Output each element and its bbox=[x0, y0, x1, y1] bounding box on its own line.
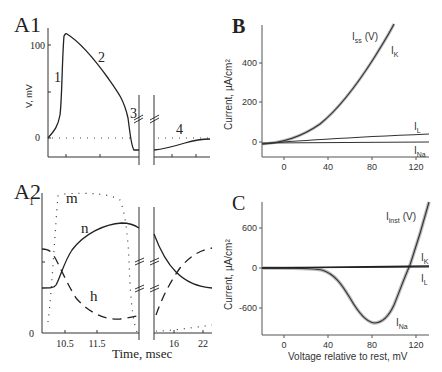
b-iss-halo bbox=[262, 24, 394, 144]
a1-phase-4: 4 bbox=[176, 122, 183, 137]
figure: A1 100 0 V, mV 1 2 3 4 A2 bbox=[0, 0, 442, 372]
a1-ytick-0: 0 bbox=[35, 132, 40, 143]
b-label-iss: Iss(V) bbox=[352, 31, 378, 44]
a2-m-gate-recovery bbox=[156, 325, 212, 331]
a1-ytick-100: 100 bbox=[30, 40, 45, 51]
a2-label-m: m bbox=[66, 190, 78, 206]
panel-a1: A1 100 0 V, mV 1 2 3 4 bbox=[14, 12, 210, 165]
a1-phase-2: 2 bbox=[98, 50, 105, 65]
panel-b: B 400 200 0 0 40 80 120 Current, µA/cm² … bbox=[223, 15, 429, 172]
b-label-ina: INa bbox=[414, 145, 426, 158]
panel-a2: A2 1 0 10.5 11.5 16 22 Time, msec bbox=[14, 179, 212, 361]
b-xtick-40: 40 bbox=[323, 162, 333, 172]
b-xtick-0: 0 bbox=[281, 162, 286, 172]
a2-m-gate-trace bbox=[48, 193, 137, 332]
c-ytick-600: 600 bbox=[242, 223, 257, 233]
a2-ytick-0: 0 bbox=[29, 328, 34, 339]
b-ytick-400: 400 bbox=[242, 58, 257, 68]
panel-c: C 600 0 -600 0 40 80 120 Voltage relativ… bbox=[223, 192, 429, 362]
a1-phase-3: 3 bbox=[130, 106, 137, 121]
b-ytick-200: 200 bbox=[242, 97, 257, 107]
a1-phase-1: 1 bbox=[54, 70, 61, 85]
c-x-axis-label: Voltage relative to rest, mV bbox=[288, 351, 408, 362]
b-label-il: IL bbox=[414, 121, 421, 134]
b-ytick-0: 0 bbox=[252, 137, 257, 147]
a2-ytick-1: 1 bbox=[29, 196, 34, 207]
b-xtick-80: 80 bbox=[367, 162, 377, 172]
c-label-iinst: Iinst(V) bbox=[386, 211, 416, 224]
a2-label-h: h bbox=[90, 288, 98, 304]
c-label-ina: INa bbox=[396, 317, 408, 330]
c-xtick-120: 120 bbox=[408, 340, 423, 350]
a1-voltage-trace bbox=[48, 34, 139, 150]
b-ik-curve bbox=[262, 24, 394, 144]
c-label-il: IL bbox=[421, 273, 428, 286]
panel-label-a1: A1 bbox=[14, 12, 41, 37]
c-ytick-0: 0 bbox=[252, 263, 257, 273]
a2-xtick-11-5: 11.5 bbox=[88, 338, 105, 349]
a2-n-gate-trace bbox=[42, 223, 139, 288]
panel-label-b: B bbox=[232, 15, 245, 37]
a2-xtick-10-5: 10.5 bbox=[56, 338, 74, 349]
c-y-axis-label: Current, µA/cm² bbox=[223, 239, 234, 310]
c-xtick-80: 80 bbox=[367, 340, 377, 350]
a2-h-gate-recovery bbox=[156, 248, 212, 315]
panel-label-c: C bbox=[232, 192, 245, 214]
a1-y-axis-label: V, mV bbox=[24, 84, 34, 108]
b-y-axis-label: Current, µA/cm² bbox=[223, 59, 234, 130]
c-xtick-0: 0 bbox=[281, 340, 286, 350]
a1-voltage-trace-recovery bbox=[154, 139, 210, 150]
b-xtick-120: 120 bbox=[408, 162, 423, 172]
a2-xtick-22: 22 bbox=[198, 338, 208, 349]
c-label-ik: IK bbox=[421, 252, 429, 265]
c-xtick-40: 40 bbox=[323, 340, 333, 350]
c-ytick-minus-600: -600 bbox=[239, 303, 257, 313]
b-label-ik: IK bbox=[391, 45, 399, 58]
a2-x-axis-label: Time, msec bbox=[112, 346, 172, 361]
a2-label-n: n bbox=[81, 220, 89, 236]
panel-label-a2: A2 bbox=[14, 179, 41, 204]
a2-n-gate-recovery bbox=[154, 234, 212, 288]
